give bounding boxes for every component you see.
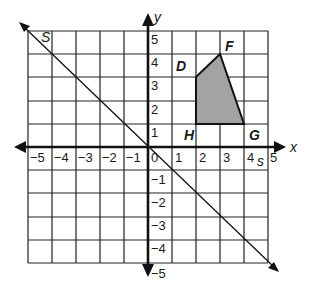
y-tick: 1 <box>151 125 158 140</box>
x-tick: 0 <box>151 150 158 165</box>
vertex-label-g: G <box>249 127 260 143</box>
polygon-dfgh <box>196 54 244 124</box>
y-axis-up-arrow-icon <box>142 13 154 26</box>
y-tick: 2 <box>151 102 158 117</box>
x-axis-left-arrow-icon <box>14 141 26 153</box>
x-tick: −1 <box>126 150 141 165</box>
line-s-label-bottom: s <box>257 153 264 169</box>
x-tick: −2 <box>102 150 117 165</box>
x-axis-label: x <box>289 139 298 155</box>
y-tick: 3 <box>151 78 158 93</box>
y-tick: 4 <box>151 55 158 70</box>
y-tick: −2 <box>151 195 166 210</box>
x-tick: 3 <box>223 150 230 165</box>
x-tick: 5 <box>270 150 277 165</box>
x-tick: −4 <box>54 150 69 165</box>
y-tick: −5 <box>151 266 166 281</box>
x-tick: −5 <box>30 150 45 165</box>
y-tick: −3 <box>151 218 166 233</box>
y-axis <box>142 13 154 277</box>
y-tick: 5 <box>151 32 158 47</box>
coordinate-plane: −5 −4 −3 −2 −1 0 1 2 3 4 5 5 4 3 2 1 −1 … <box>0 0 315 287</box>
vertex-label-f: F <box>225 38 234 54</box>
x-tick: 4 <box>247 150 254 165</box>
vertex-label-h: H <box>184 127 195 143</box>
x-tick: −3 <box>78 150 93 165</box>
line-s-label-top: S <box>41 29 51 45</box>
y-tick: −4 <box>151 241 166 256</box>
y-tick: −1 <box>151 172 166 187</box>
x-tick: 2 <box>199 150 206 165</box>
y-axis-label: y <box>153 9 162 25</box>
x-tick-labels: −5 −4 −3 −2 −1 0 1 2 3 4 5 <box>30 150 277 165</box>
x-tick: 1 <box>175 150 182 165</box>
vertex-label-d: D <box>176 58 186 74</box>
